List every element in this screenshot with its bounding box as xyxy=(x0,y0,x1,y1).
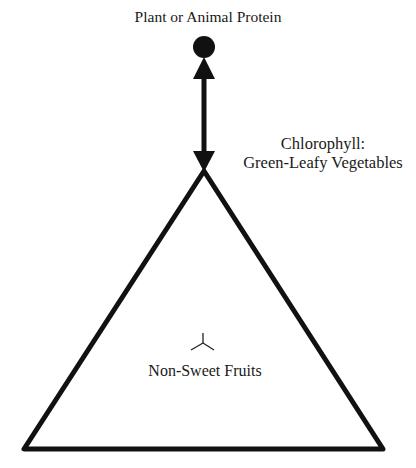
diagram-canvas xyxy=(0,0,416,468)
arrow-shaft xyxy=(202,77,207,153)
triangle-outline xyxy=(24,171,383,449)
protein-label: Plant or Animal Protein xyxy=(0,8,416,26)
centroid-mark-icon xyxy=(191,333,214,350)
protein-node-circle xyxy=(193,36,215,58)
non-sweet-fruits-label: Non-Sweet Fruits xyxy=(110,362,300,380)
chlorophyll-label-line2: Green-Leafy Vegetables xyxy=(228,154,416,173)
chlorophyll-label: Chlorophyll: Green-Leafy Vegetables xyxy=(228,135,416,173)
arrowhead-up-icon xyxy=(193,57,215,79)
chlorophyll-label-line1: Chlorophyll: xyxy=(228,135,416,154)
